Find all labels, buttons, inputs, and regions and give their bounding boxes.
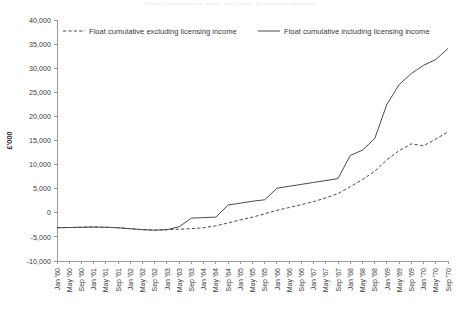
y-tick-label: 0: [47, 208, 51, 217]
legend-label: Float cumulative including licensing inc…: [284, 27, 430, 36]
x-tick-label: Sep '69: [408, 268, 416, 292]
series-including: [57, 48, 448, 230]
x-tick-label: Jan '61: [90, 268, 97, 290]
x-tick-label: May '61: [102, 268, 110, 292]
series-excluding: [57, 132, 448, 230]
chart-container: Float cumulative excl. and incl. licensi…: [0, 0, 460, 311]
x-tick-label: Jan '62: [127, 268, 134, 290]
chart-legend: Float cumulative excluding licensing inc…: [63, 27, 430, 36]
x-tick-label: Jan '70: [420, 268, 427, 290]
x-tick-label: Jan '65: [237, 268, 244, 290]
x-tick-label: Sep '70: [445, 268, 453, 292]
y-tick-label: -5,000: [31, 233, 51, 242]
x-tick-label: Jan '63: [164, 268, 171, 290]
x-tick-label: Sep '64: [225, 268, 233, 292]
x-tick-label: May '60: [66, 268, 74, 292]
y-axis: 40,00035,00030,00025,00020,00015,00010,0…: [5, 16, 57, 266]
y-tick-label: 15,000: [29, 136, 51, 145]
x-tick-label: Sep '63: [188, 268, 196, 292]
y-tick-label: 40,000: [29, 16, 51, 25]
y-tick-label: 30,000: [29, 64, 51, 73]
x-tick-label: May '66: [286, 268, 294, 292]
x-axis: Jan '60May '60Sep '60Jan '61May '61Sep '…: [54, 261, 453, 292]
y-tick-label: 5,000: [33, 184, 51, 193]
y-tick-label: 20,000: [29, 112, 51, 121]
y-tick-label: 35,000: [29, 40, 51, 49]
x-tick-label: Jan '66: [274, 268, 281, 290]
x-tick-label: May '63: [176, 268, 184, 292]
x-tick-label: Sep '61: [115, 268, 123, 292]
y-axis-title: £'000: [5, 131, 14, 149]
x-tick-label: Jan '69: [384, 268, 391, 290]
x-tick-label: May '67: [322, 268, 330, 292]
y-tick-label: -10,000: [27, 257, 51, 266]
x-tick-label: Sep '65: [261, 268, 269, 292]
x-tick-label: May '65: [249, 268, 257, 292]
x-tick-label: Sep '60: [78, 268, 86, 292]
x-tick-label: Sep '66: [298, 268, 306, 292]
x-tick-label: Sep '62: [151, 268, 159, 292]
y-tick-label: 10,000: [29, 160, 51, 169]
chart-svg: Float cumulative excluding licensing inc…: [0, 0, 460, 311]
series-layer: [57, 48, 448, 230]
x-tick-label: Jan '68: [347, 268, 354, 290]
x-tick-label: Sep '68: [371, 268, 379, 292]
y-tick-label: 25,000: [29, 88, 51, 97]
x-tick-label: May '69: [396, 268, 404, 292]
x-tick-label: Jan '64: [200, 268, 207, 290]
x-tick-label: Jan '67: [310, 268, 317, 290]
x-tick-label: Jan '60: [54, 268, 61, 290]
x-tick-label: May '64: [212, 268, 220, 292]
legend-label: Float cumulative excluding licensing inc…: [89, 27, 237, 36]
x-tick-label: May '70: [432, 268, 440, 292]
x-tick-label: May '68: [359, 268, 367, 292]
x-tick-label: Sep '67: [335, 268, 343, 292]
x-tick-label: May '62: [139, 268, 147, 292]
